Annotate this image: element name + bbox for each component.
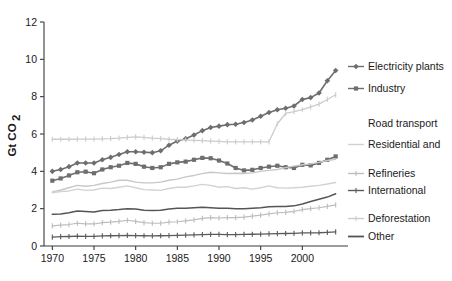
series-international-transport: [52, 229, 335, 239]
x-tick-label: 1975: [82, 252, 106, 264]
y-axis-ticks: 024681012: [25, 16, 44, 252]
data-marker: [217, 158, 221, 162]
data-marker: [250, 168, 254, 172]
y-axis-title-subscript: 2: [10, 115, 22, 121]
y-tick-label: 8: [31, 90, 37, 102]
data-marker: [142, 165, 146, 169]
data-marker: [117, 164, 121, 168]
data-marker: [259, 166, 263, 170]
data-marker: [192, 158, 196, 162]
data-marker: [184, 160, 188, 164]
data-marker: [275, 164, 279, 168]
data-marker: [150, 166, 154, 170]
x-tick-label: 1990: [207, 252, 231, 264]
data-marker: [150, 150, 156, 156]
data-marker: [175, 160, 179, 164]
series-group: [50, 68, 339, 240]
x-axis-ticks: 1970197519801985199019952000: [41, 246, 315, 264]
data-marker: [92, 171, 96, 175]
data-marker: [233, 121, 239, 127]
y-tick-label: 6: [31, 128, 37, 140]
x-tick-label: 2000: [291, 252, 315, 264]
series-path: [52, 71, 335, 172]
data-marker: [234, 166, 238, 170]
data-marker: [200, 128, 206, 134]
data-marker: [66, 164, 72, 170]
y-tick-label: 12: [25, 16, 37, 28]
data-marker: [242, 168, 246, 172]
legend-item-label: Deforestation: [368, 212, 431, 224]
data-marker: [334, 154, 338, 158]
y-tick-label: 2: [31, 202, 37, 214]
legend-item-refineries[interactable]: Refineries: [348, 167, 415, 179]
legend-item-label: Other: [368, 230, 395, 242]
data-marker: [100, 167, 104, 171]
y-axis-title-text: Gt CO: [6, 123, 18, 156]
data-marker: [250, 117, 256, 123]
legend-item-label: Refineries: [368, 167, 415, 179]
data-marker: [225, 122, 231, 128]
data-marker: [159, 165, 163, 169]
data-marker: [216, 123, 222, 129]
data-marker: [116, 152, 122, 158]
data-marker: [50, 179, 54, 183]
data-marker: [267, 165, 271, 169]
legend-item-label: Industry: [368, 82, 406, 94]
data-marker: [258, 113, 264, 119]
data-marker: [200, 156, 204, 160]
legend-item-label: Electricity plants: [368, 60, 444, 72]
series-residential-and-service-sectors: [52, 183, 335, 193]
emissions-line-chart: 0246810121970197519801985199019952000Gt …: [0, 0, 452, 281]
data-marker: [100, 157, 106, 163]
data-marker: [167, 162, 171, 166]
data-marker: [83, 160, 89, 166]
y-tick-label: 0: [31, 240, 37, 252]
y-tick-label: 4: [31, 165, 37, 177]
series-industry-excl-cement: [50, 154, 338, 182]
data-marker: [134, 162, 138, 166]
series-path: [52, 183, 335, 193]
x-tick-label: 1980: [124, 252, 148, 264]
legend-swatch-marker: [353, 64, 359, 70]
data-marker: [209, 156, 213, 160]
data-marker: [67, 173, 71, 177]
data-marker: [241, 120, 247, 126]
legend-item-other[interactable]: Other: [348, 230, 395, 242]
legend-item-residential-and[interactable]: Residential and: [348, 138, 441, 150]
data-marker: [125, 149, 131, 155]
data-marker: [191, 132, 197, 138]
legend-item-road-transport[interactable]: Road transport: [368, 117, 438, 129]
data-marker: [133, 149, 139, 155]
data-marker: [225, 161, 229, 165]
y-tick-label: 10: [25, 53, 37, 65]
data-marker: [84, 170, 88, 174]
data-marker: [58, 167, 64, 173]
data-marker: [208, 125, 214, 131]
y-axis-title: Gt CO2: [6, 115, 22, 157]
legend-item-electricity-plants[interactable]: Electricity plants: [348, 60, 444, 72]
legend-item-label: International: [368, 184, 426, 196]
x-tick-label: 1985: [166, 252, 190, 264]
legend-item-industry[interactable]: Industry: [348, 82, 406, 94]
legend-swatch-marker: [354, 86, 358, 90]
legend: Electricity plantsIndustryRoad transport…: [348, 60, 444, 242]
legend-item-label: Road transport: [368, 117, 438, 129]
data-marker: [109, 165, 113, 169]
data-marker: [266, 110, 272, 116]
chart-figure: 0246810121970197519801985199019952000Gt …: [0, 0, 452, 281]
data-marker: [283, 105, 289, 111]
data-marker: [141, 149, 147, 155]
data-marker: [59, 176, 63, 180]
data-marker: [125, 161, 129, 165]
data-marker: [75, 160, 81, 166]
legend-item-deforestation[interactable]: Deforestation: [348, 212, 431, 224]
x-tick-label: 1995: [249, 252, 273, 264]
data-marker: [50, 169, 56, 175]
data-marker: [108, 155, 114, 161]
legend-item-international[interactable]: International: [348, 184, 426, 196]
data-marker: [275, 107, 281, 113]
data-marker: [91, 160, 97, 166]
data-marker: [75, 170, 79, 174]
legend-item-label: Residential and: [368, 138, 441, 150]
x-tick-label: 1970: [41, 252, 65, 264]
